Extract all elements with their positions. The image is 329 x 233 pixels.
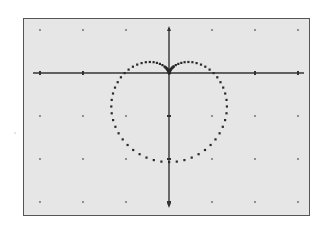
curve-point: [225, 112, 227, 114]
y-tick: [167, 115, 171, 117]
grid-dot: [39, 201, 41, 203]
curve-point: [225, 99, 227, 101]
curve-point: [196, 62, 198, 64]
grid-dot: [297, 158, 299, 160]
curve-point: [198, 153, 200, 155]
grid-dot: [39, 29, 41, 31]
curve-point: [141, 62, 143, 64]
grid-dot: [82, 201, 84, 203]
curve-point: [222, 87, 224, 89]
curve-point: [164, 66, 166, 68]
curve-point: [118, 132, 120, 134]
grid-dot: [297, 29, 299, 31]
x-tick: [297, 71, 299, 75]
curve-point: [175, 64, 177, 66]
grid-dot: [254, 29, 256, 31]
curve-point: [153, 61, 155, 63]
curve-point: [136, 64, 138, 66]
x-tick: [39, 71, 41, 75]
curve-point: [145, 61, 147, 63]
curve-point: [111, 112, 113, 114]
curve-point: [160, 161, 162, 163]
curve-point: [224, 92, 226, 94]
graph-plot: [0, 0, 329, 233]
curve-point: [204, 66, 206, 68]
curve-point: [139, 153, 141, 155]
grid-dot: [211, 115, 213, 117]
curve-point: [213, 72, 215, 74]
curve-point: [127, 144, 129, 146]
curve-point: [226, 105, 228, 107]
grid-dot: [82, 158, 84, 160]
grid-dot: [125, 115, 127, 117]
curve-point: [153, 159, 155, 161]
y-tick: [167, 201, 171, 203]
grid-dot: [254, 115, 256, 117]
curve-point: [114, 87, 116, 89]
curve-point: [145, 157, 147, 159]
curve-point: [122, 138, 124, 140]
curve-point: [112, 119, 114, 121]
grid-dot: [39, 115, 41, 117]
curve-point: [149, 61, 151, 63]
curve-point: [180, 62, 182, 64]
x-tick: [254, 71, 256, 75]
curve-point: [156, 62, 158, 64]
curve-point: [168, 161, 170, 163]
grid-dot: [125, 29, 127, 31]
curve-point: [200, 64, 202, 66]
grid-dot: [82, 115, 84, 117]
curve-point: [124, 72, 126, 74]
grid-dot: [211, 201, 213, 203]
curve-point: [224, 119, 226, 121]
curve-point: [114, 126, 116, 128]
curve-point: [111, 99, 113, 101]
curve-point: [210, 144, 212, 146]
grid-dot: [297, 201, 299, 203]
grid-dot: [125, 201, 127, 203]
curve-point: [184, 61, 186, 63]
curve-point: [219, 132, 221, 134]
curve-point: [214, 138, 216, 140]
y-axis-arrow-up-icon: [167, 26, 171, 31]
curve-point: [176, 161, 178, 163]
curve-point: [187, 61, 189, 63]
grid-dot: [39, 158, 41, 160]
grid-dot: [254, 201, 256, 203]
curve-point: [132, 66, 134, 68]
grid-dot: [125, 158, 127, 160]
curve-point: [216, 76, 218, 78]
y-axis-arrow-down-icon: [167, 203, 171, 208]
curve-point: [132, 149, 134, 151]
grid-dot: [254, 158, 256, 160]
curve-point: [159, 63, 161, 65]
x-tick: [82, 71, 84, 75]
curve-point: [120, 76, 122, 78]
grid-dot: [297, 115, 299, 117]
curve-point: [183, 159, 185, 161]
curve-point: [209, 69, 211, 71]
y-tick: [167, 158, 171, 160]
curve-point: [112, 92, 114, 94]
curve-point: [219, 81, 221, 83]
curve-point: [161, 64, 163, 66]
grid-dot: [211, 29, 213, 31]
curve-point: [191, 157, 193, 159]
curve-point: [222, 126, 224, 128]
grid-dot: [211, 158, 213, 160]
curve-point: [110, 105, 112, 107]
curve-point: [204, 149, 206, 151]
curve-point: [128, 69, 130, 71]
grid-dot: [82, 29, 84, 31]
curve-point: [177, 63, 179, 65]
curve-point: [191, 61, 193, 63]
curve-point: [117, 81, 119, 83]
